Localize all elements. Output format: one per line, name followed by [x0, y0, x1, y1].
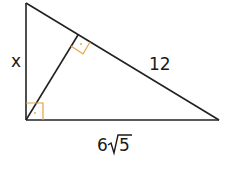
label-x: x — [11, 51, 21, 71]
label-base-coeff: 6 — [97, 135, 108, 155]
label-base-radicand: 5 — [119, 135, 130, 155]
altitude — [26, 35, 78, 120]
hypotenuse — [26, 3, 219, 120]
label-12: 12 — [149, 54, 171, 74]
triangle-diagram: x 12 6 5 — [0, 0, 227, 171]
right-angle-dot-altitude — [80, 43, 82, 45]
right-angle-dot-bottom — [34, 112, 36, 114]
